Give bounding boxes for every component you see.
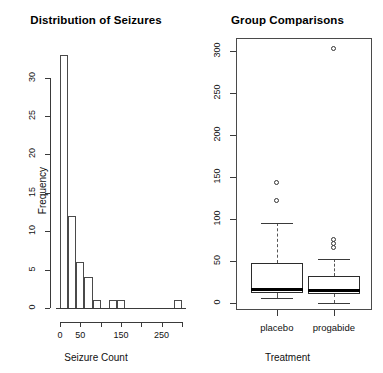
histogram-y-tick-label: 30 [27,67,37,87]
boxplot-y-tick-label: 300 [212,39,222,61]
histogram-x-tick-label: 150 [107,330,135,340]
histogram-x-tick-label: 50 [66,330,94,340]
histogram-x-axis-label: Seizure Count [0,352,192,363]
histogram-panel: Distribution of Seizures 051015202530 05… [0,0,192,373]
histogram-y-tick-label: 5 [27,259,37,279]
boxplot-x-axis-label: Treatment [192,352,383,363]
histogram-bar [174,300,182,308]
histogram-title: Distribution of Seizures [0,14,192,26]
histogram-baseline [56,308,186,309]
histogram-bar [109,300,117,308]
boxplot-y-tick-label: 100 [212,207,222,229]
boxplot-y-tick-label: 0 [212,291,222,313]
histogram-y-tick [45,78,50,79]
figure-canvas: Distribution of Seizures 051015202530 05… [0,0,383,373]
histogram-bar [68,216,76,308]
histogram-x-tick [162,322,163,327]
boxplot-group-label-progabide: progabide [294,322,374,333]
boxplot-whisker-cap-lower [318,303,350,304]
boxplot-whisker-upper [277,223,278,263]
boxplot-whisker-cap-upper [261,223,293,224]
histogram-bar [76,262,84,308]
boxplot-x-tick [334,310,335,316]
boxplot-whisker-cap-upper [318,259,350,260]
histogram-y-tick-label: 20 [27,143,37,163]
boxplot-whisker-upper [334,259,335,276]
boxplot-y-tick-label: 200 [212,123,222,145]
histogram-x-tick [121,322,122,327]
histogram-bar [84,277,92,308]
boxplot-title: Group Comparisons [192,14,383,26]
histogram-bar [60,55,68,308]
histogram-y-tick [45,308,50,309]
boxplot-y-tick-label: 250 [212,81,222,103]
histogram-y-tick [45,270,50,271]
histogram-x-tick [182,322,183,327]
boxplot-whisker-cap-lower [261,298,293,299]
histogram-x-tick-label: 250 [148,330,176,340]
histogram-y-tick-label: 25 [27,105,37,125]
histogram-y-axis-line [50,78,51,308]
boxplot-median-line [308,289,360,292]
histogram-bar [117,300,125,308]
histogram-bar [93,300,101,308]
histogram-x-tick [60,322,61,327]
histogram-y-axis-label: Frequency [37,130,48,250]
histogram-x-tick [141,322,142,327]
histogram-y-tick-label: 15 [27,182,37,202]
histogram-y-tick [45,116,50,117]
boxplot-x-tick [277,310,278,316]
boxplot-whisker-lower [334,294,335,303]
histogram-y-tick-label: 0 [27,297,37,317]
histogram-x-tick [101,322,102,327]
histogram-x-tick [80,322,81,327]
histogram-y-tick-label: 10 [27,220,37,240]
boxplot-y-tick-label: 50 [212,249,222,271]
boxplot-y-tick-label: 150 [212,165,222,187]
boxplot-panel: Group Comparisons 050100150200250300 pla… [192,0,383,373]
boxplot-median-line [251,288,303,291]
